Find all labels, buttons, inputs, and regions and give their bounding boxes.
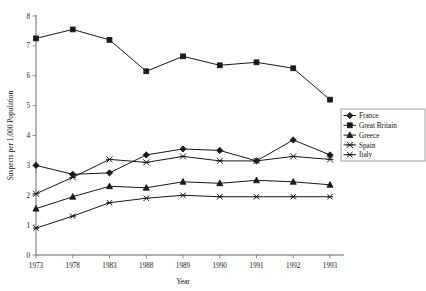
- data-point-marker: [217, 147, 223, 153]
- y-tick-label: 0: [26, 252, 30, 260]
- data-point-marker: [180, 153, 187, 159]
- x-tick-label: 1991: [249, 262, 264, 270]
- data-point-marker: [180, 193, 186, 198]
- data-point-marker: [217, 194, 223, 199]
- data-point-marker: [217, 63, 222, 68]
- data-point-marker: [347, 123, 352, 128]
- legend-label: Great Britain: [359, 122, 397, 130]
- legend-label: Greece: [359, 132, 379, 140]
- series-polyline: [36, 29, 330, 99]
- x-tick-label: 1989: [176, 262, 191, 270]
- data-point-marker: [34, 36, 39, 41]
- data-point-marker: [106, 156, 113, 162]
- data-point-marker: [291, 66, 296, 71]
- series-italy: [33, 193, 333, 231]
- data-point-marker: [290, 194, 296, 199]
- y-tick-label: 3: [26, 162, 30, 170]
- data-point-marker: [290, 137, 296, 143]
- series-polyline: [36, 156, 330, 193]
- data-point-marker: [70, 213, 76, 218]
- data-point-marker: [70, 27, 75, 32]
- data-point-marker: [181, 54, 186, 59]
- data-point-marker: [328, 97, 333, 102]
- y-axis-title: Suspects per 1,000 Population: [6, 90, 15, 180]
- x-tick-label: 1990: [213, 262, 228, 270]
- legend-label: France: [359, 112, 379, 120]
- x-tick-label: 1973: [29, 262, 44, 270]
- data-point-marker: [327, 194, 333, 199]
- series-polyline: [36, 195, 330, 228]
- y-tick-label: 7: [26, 42, 30, 50]
- data-point-marker: [106, 170, 112, 176]
- legend-label: Spain: [359, 142, 376, 150]
- data-point-marker: [180, 146, 186, 152]
- x-tick-label: 1992: [286, 262, 301, 270]
- legend-label: Italy: [359, 151, 373, 159]
- y-tick-label: 5: [26, 102, 30, 110]
- series-great-britain: [34, 27, 333, 102]
- x-tick-label: 1978: [66, 262, 81, 270]
- y-tick-label: 1: [26, 222, 30, 230]
- line-chart: 0123456781973197819831988198919901991199…: [0, 0, 426, 291]
- data-point-marker: [143, 159, 150, 165]
- data-point-marker: [106, 200, 112, 205]
- y-tick-label: 4: [26, 132, 30, 140]
- x-tick-label: 1988: [139, 262, 154, 270]
- data-point-marker: [144, 69, 149, 74]
- chart-container: 0123456781973197819831988198919901991199…: [0, 0, 426, 291]
- data-point-marker: [33, 162, 39, 168]
- y-tick-label: 6: [26, 72, 30, 80]
- legend: FranceGreat BritainGreeceSpainItaly: [341, 109, 425, 161]
- data-point-marker: [216, 158, 223, 164]
- data-point-marker: [253, 194, 259, 199]
- x-axis-title: Year: [176, 277, 190, 286]
- y-tick-label: 8: [26, 13, 30, 21]
- series-greece: [33, 177, 333, 211]
- data-point-marker: [107, 38, 112, 43]
- data-point-marker: [143, 152, 149, 158]
- data-point-marker: [290, 153, 297, 159]
- data-point-marker: [254, 60, 259, 65]
- y-tick-label: 2: [26, 192, 30, 200]
- x-tick-label: 1993: [323, 262, 338, 270]
- series-spain: [33, 153, 334, 196]
- x-tick-label: 1983: [102, 262, 117, 270]
- data-point-marker: [143, 196, 149, 201]
